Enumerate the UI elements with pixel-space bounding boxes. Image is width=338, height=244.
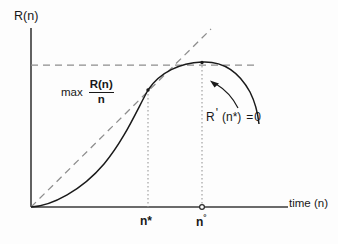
tangency-point-marker: [146, 88, 149, 91]
maximum-point-marker: [200, 61, 203, 64]
derivative-value: 0: [254, 111, 261, 123]
x-axis-label: time (n): [289, 198, 328, 210]
rn-diagram: R(n) time (n) n* n° max R(n) n R' (n*) =…: [0, 0, 338, 244]
callout-arrow-shaft: [216, 84, 238, 108]
max-word: max: [61, 87, 83, 99]
derivative-equals: =: [246, 111, 253, 123]
y-axis-label: R(n): [14, 10, 38, 23]
plot-canvas: [0, 0, 338, 244]
fraction-denominator: n: [98, 93, 105, 106]
callout-arrow-head: [210, 81, 219, 88]
x-tick-label-n-star: n*: [140, 215, 152, 227]
fraction-numerator: R(n): [89, 79, 114, 92]
derivative-annotation: R' (n*) = 0: [206, 111, 261, 123]
axis-open-circle-marker: [200, 205, 205, 210]
ratio-fraction: R(n) n: [89, 79, 114, 106]
x-tick-n-superscript: °: [203, 213, 206, 222]
derivative-prime: ': [216, 107, 218, 119]
derivative-argument: (n*): [222, 111, 241, 123]
derivative-symbol: R: [206, 111, 215, 123]
max-ratio-annotation: max R(n) n: [61, 79, 114, 106]
x-tick-label-n-opt: n°: [196, 215, 207, 228]
tangent-ray-dashed: [31, 29, 211, 207]
